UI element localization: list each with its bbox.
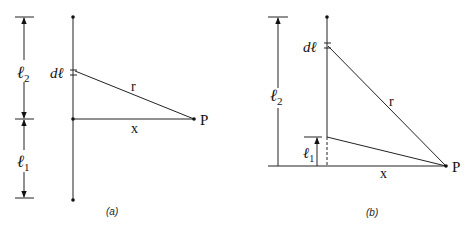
lower-end-line: [327, 137, 446, 166]
label-r: r: [131, 79, 136, 94]
label-p: P: [200, 112, 208, 128]
diagram-canvas: ℓ2 ℓ1 dℓ r x P (a) ℓ2 ℓ1 dℓ r x: [0, 0, 476, 229]
label-l1: ℓ1: [303, 145, 314, 164]
label-l2: ℓ2: [17, 63, 30, 84]
panel-a: ℓ2 ℓ1 dℓ r x P (a): [15, 15, 208, 217]
label-p: P: [452, 159, 460, 175]
label-dl: dℓ: [50, 65, 64, 81]
panel-b: ℓ2 ℓ1 dℓ r x P (b): [268, 15, 460, 218]
label-dl: dℓ: [303, 39, 317, 55]
point-p: [192, 117, 196, 121]
wire-top-end: [71, 15, 75, 19]
wire-top-end: [325, 15, 329, 19]
label-x: x: [131, 121, 138, 136]
label-l1: ℓ1: [17, 152, 30, 173]
wire-bottom-end: [71, 198, 75, 202]
r-line: [328, 46, 446, 166]
label-r: r: [389, 94, 394, 109]
label-l2: ℓ2: [270, 86, 283, 107]
caption-a: (a): [106, 206, 118, 217]
point-p: [444, 164, 448, 168]
caption-b: (b): [366, 207, 378, 218]
label-x: x: [380, 166, 387, 181]
